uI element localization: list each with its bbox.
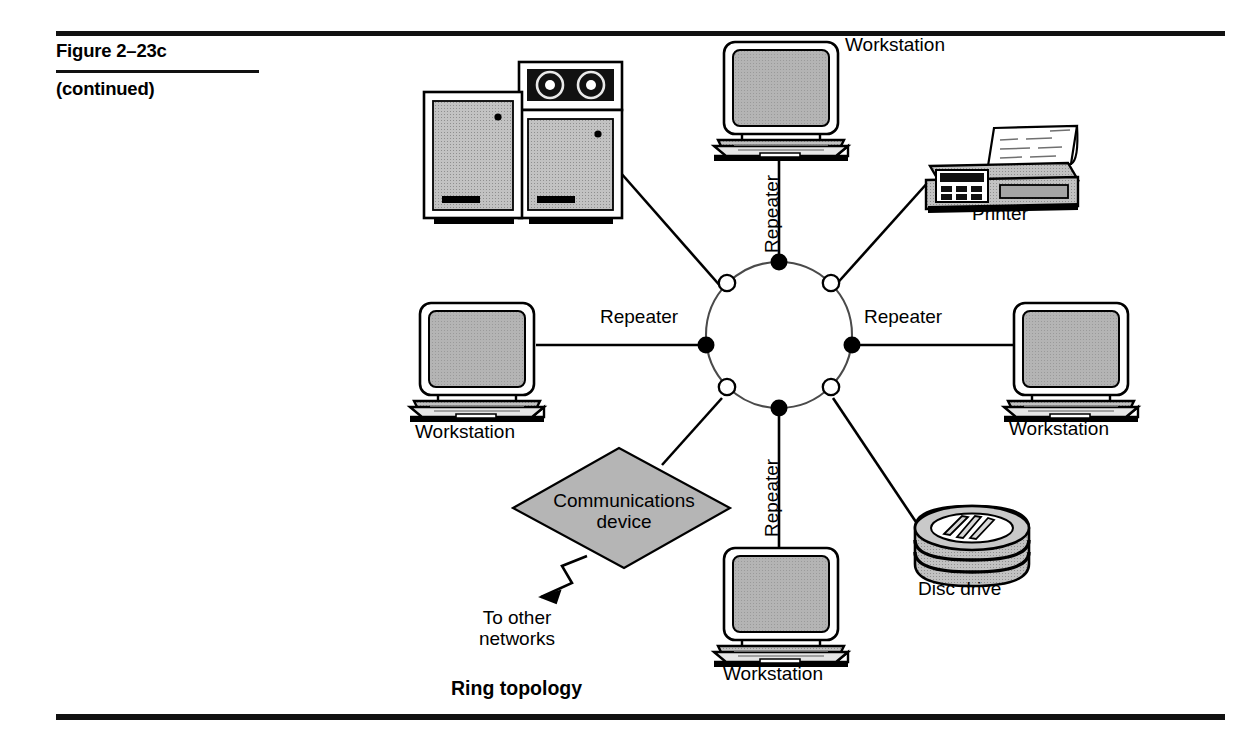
disc-drive-icon	[915, 506, 1029, 586]
spoke-printer	[833, 180, 930, 288]
ring-topology-diagram	[0, 0, 1237, 753]
label-repeater-left: Repeater	[600, 306, 678, 327]
repeater-node-bottom	[771, 400, 788, 417]
repeater-node-left	[698, 337, 715, 354]
label-printer: Printer	[972, 203, 1028, 224]
repeater-node-right	[844, 337, 861, 354]
workstation-icon-bottom	[714, 548, 848, 667]
spoke-disc	[833, 398, 918, 525]
lightning-bolt-arrow	[541, 556, 587, 603]
junction-node-lower-right	[823, 379, 839, 395]
workstation-icon-top	[714, 42, 848, 161]
printer-icon	[926, 126, 1078, 213]
label-workstation-right: Workstation	[1009, 418, 1109, 439]
junction-node-lower-left	[719, 379, 735, 395]
junction-node-upper-right	[823, 275, 839, 291]
label-disc-drive: Disc drive	[918, 578, 1001, 599]
label-workstation-top: Workstation	[845, 34, 945, 55]
label-repeater-top: Repeater	[761, 175, 782, 253]
label-workstation-bottom: Workstation	[723, 663, 823, 684]
figure-page: Figure 2–23c (continued)	[0, 0, 1237, 753]
label-workstation-left: Workstation	[415, 421, 515, 442]
label-repeater-bottom: Repeater	[761, 459, 782, 537]
label-to-other-networks: To other networks	[437, 607, 597, 650]
mainframe-icon	[424, 62, 622, 224]
repeater-node-top	[771, 254, 788, 271]
diagram-caption: Ring topology	[451, 678, 582, 700]
spoke-mainframe	[620, 172, 722, 288]
label-communications-device: Communications device	[525, 490, 723, 533]
spoke-comms	[662, 398, 722, 465]
workstation-icon-left	[410, 303, 544, 422]
junction-node-upper-left	[719, 275, 735, 291]
workstation-icon-right	[1004, 303, 1138, 422]
ring-junction-nodes	[719, 275, 839, 395]
label-repeater-right: Repeater	[864, 306, 942, 327]
